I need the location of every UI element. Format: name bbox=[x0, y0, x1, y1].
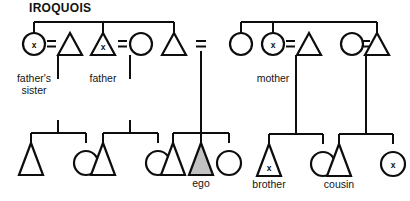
x-mark: x bbox=[267, 163, 272, 173]
node-ego[interactable] bbox=[189, 143, 213, 175]
node-fathers-wife[interactable] bbox=[130, 33, 152, 55]
node-father[interactable]: x bbox=[91, 33, 115, 55]
node-brother[interactable]: x bbox=[257, 144, 281, 176]
label-cousin: cousin bbox=[311, 178, 367, 190]
node-mothers-husband[interactable] bbox=[297, 33, 321, 55]
label-mother: mother bbox=[245, 72, 301, 84]
x-mark: x bbox=[32, 40, 37, 50]
node-g2-g[interactable] bbox=[217, 151, 241, 175]
node-mothers-brother-wife[interactable] bbox=[341, 33, 363, 55]
kinship-svg: x x bbox=[0, 0, 410, 201]
node-fathers-sisters-husband[interactable] bbox=[58, 33, 82, 55]
x-mark: x bbox=[391, 160, 396, 170]
node-mothers-brother[interactable] bbox=[365, 33, 389, 55]
sibling-bar-g2-brother bbox=[269, 134, 323, 144]
label-ego: ego bbox=[173, 177, 229, 189]
marriage-link-4 bbox=[286, 41, 295, 47]
sibling-bar-g2-2 bbox=[103, 120, 158, 143]
node-mother[interactable]: x bbox=[262, 33, 284, 55]
node-mothers-sister[interactable] bbox=[230, 33, 252, 55]
node-fathers-sister[interactable]: x bbox=[23, 33, 45, 55]
x-mark: x bbox=[101, 42, 106, 52]
label-father: father bbox=[75, 72, 131, 84]
sibling-bar-left bbox=[34, 22, 174, 33]
sibling-bar-g2-cousin bbox=[339, 134, 393, 144]
kinship-diagram-root: IROQUOIS x bbox=[0, 0, 410, 201]
node-fathers-brother[interactable] bbox=[162, 33, 186, 55]
label-brother: brother bbox=[241, 178, 297, 190]
x-mark: x bbox=[271, 40, 276, 50]
node-g2-a[interactable] bbox=[19, 143, 43, 175]
sibling-bar-g2-1 bbox=[31, 120, 86, 143]
node-cousin[interactable]: x bbox=[381, 152, 405, 176]
marriage-link-3 bbox=[196, 41, 206, 47]
marriage-link-1 bbox=[47, 41, 56, 47]
marriage-link-2 bbox=[118, 41, 127, 47]
label-fathers-sister: father's sister bbox=[6, 72, 62, 96]
